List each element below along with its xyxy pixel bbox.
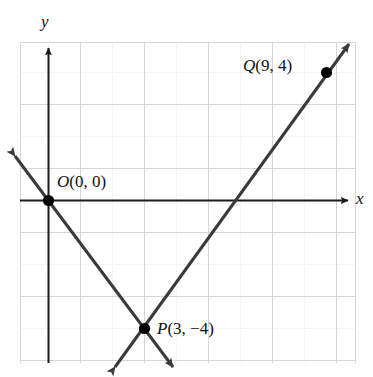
point-label-P: P(3, −4) [157,320,214,337]
point-label-O: O(0, 0) [57,173,106,190]
point-label-P-name: P [157,319,167,338]
point-P [139,323,150,334]
coordinate-plane-figure: y x O(0, 0) P(3, −4) Q(9, 4) [0,0,373,377]
line-through-P-and-Q [115,44,349,367]
point-label-Q-name: Q [243,56,255,75]
point-label-Q-coords: (9, 4) [255,56,292,75]
point-label-O-coords: (0, 0) [69,172,106,191]
point-label-P-coords: (3, −4) [167,319,213,338]
point-Q [321,67,332,78]
grid-major-lines [20,42,356,363]
point-label-Q: Q(9, 4) [243,57,292,74]
axes [20,48,348,363]
point-label-O-name: O [57,172,69,191]
x-axis-label: x [356,190,364,207]
grid-minor-lines [20,42,355,363]
point-O [43,195,54,206]
y-axis-label: y [41,13,49,30]
